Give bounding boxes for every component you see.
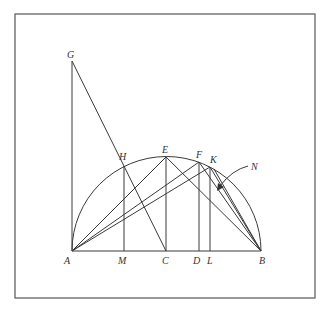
label-H: H [118, 151, 127, 162]
geometry-figure: A M C D L B G H E F K N [0, 0, 330, 309]
segment-KB-parallel [214, 169, 261, 251]
label-D: D [192, 255, 201, 266]
label-E: E [161, 144, 168, 155]
segment-EB [166, 157, 261, 251]
label-A: A [63, 255, 71, 266]
label-G: G [67, 49, 74, 60]
label-C: C [162, 255, 169, 266]
segment-AF [72, 162, 199, 251]
label-M: M [117, 255, 127, 266]
label-K: K [209, 154, 218, 165]
label-L: L [206, 255, 213, 266]
label-B: B [259, 255, 265, 266]
label-F: F [195, 149, 203, 160]
label-N: N [250, 161, 259, 172]
segment-AE [72, 157, 166, 251]
